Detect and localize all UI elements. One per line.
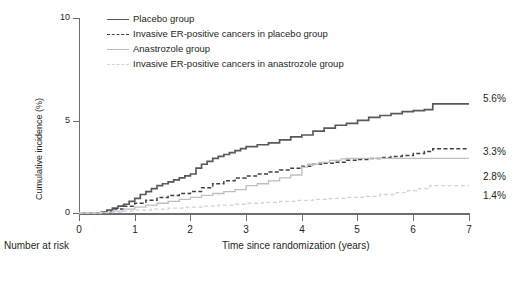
end-label-anastrozole: 2.8% — [483, 171, 506, 182]
legend-label-anastrozole: Anastrozole group — [133, 42, 210, 56]
legend-swatch-placebo — [107, 19, 129, 20]
end-label-placebo-er: 3.3% — [483, 146, 506, 157]
legend-swatch-placebo-er — [107, 34, 129, 35]
legend-swatch-anastrozole — [107, 49, 129, 50]
curve-anastrozole — [79, 158, 469, 213]
curve-anastrozole-er — [79, 186, 469, 213]
legend-label-anastrozole-er: Invasive ER-positive cancers in anastroz… — [133, 57, 344, 71]
legend-label-placebo: Placebo group — [133, 12, 194, 26]
legend-label-placebo-er: Invasive ER-positive cancers in placebo … — [133, 27, 328, 41]
chart-figure: 10 5 0 0 1 2 3 4 5 6 7 Cumulative incide… — [0, 0, 521, 285]
end-label-placebo: 5.6% — [483, 93, 506, 104]
legend-swatch-anastrozole-er — [107, 64, 129, 65]
end-label-anastrozole-er: 1.4% — [483, 190, 506, 201]
curve-layer — [0, 0, 521, 285]
